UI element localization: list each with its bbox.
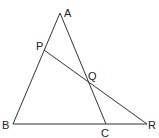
segment-pr xyxy=(44,50,147,124)
geometry-diagram: ABCRPQ xyxy=(0,0,159,138)
point-labels: ABCRPQ xyxy=(2,7,156,138)
segment-ab xyxy=(13,13,60,124)
segments xyxy=(13,13,147,124)
point-label-b: B xyxy=(2,119,9,131)
point-label-a: A xyxy=(64,7,72,19)
point-label-q: Q xyxy=(88,70,97,82)
point-label-c: C xyxy=(101,127,109,138)
point-label-p: P xyxy=(36,40,43,52)
point-label-r: R xyxy=(148,119,156,131)
segment-ac xyxy=(60,13,106,124)
